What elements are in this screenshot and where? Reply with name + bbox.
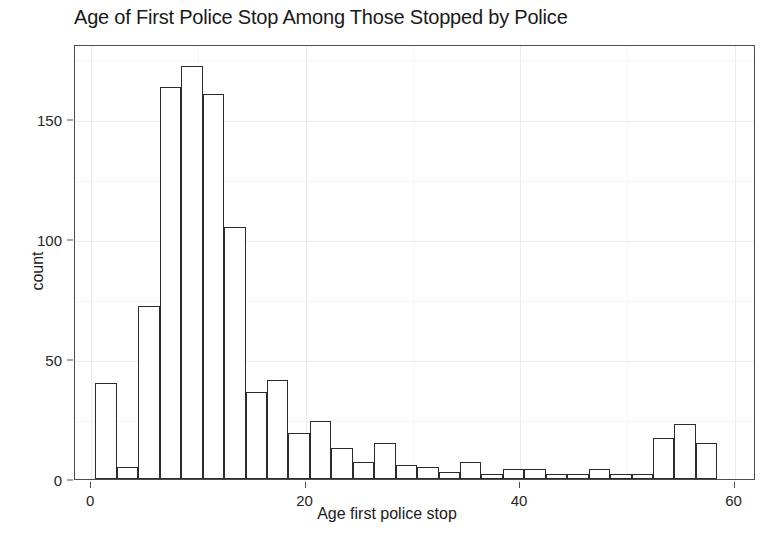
histogram-bar bbox=[288, 433, 309, 479]
histogram-bar bbox=[674, 424, 695, 479]
y-axis-tick-mark bbox=[67, 119, 73, 120]
chart-title: Age of First Police Stop Among Those Sto… bbox=[74, 6, 568, 29]
y-axis-tick-label: 150 bbox=[37, 111, 62, 128]
histogram-bar bbox=[567, 474, 588, 479]
histogram-bar bbox=[224, 227, 245, 479]
histogram-bar bbox=[117, 467, 138, 479]
histogram-bar bbox=[374, 443, 395, 479]
chart-figure: Age of First Police Stop Among Those Sto… bbox=[0, 0, 774, 553]
histogram-bar bbox=[546, 474, 567, 479]
histogram-bars bbox=[75, 46, 754, 479]
histogram-bar bbox=[503, 469, 524, 479]
histogram-bar bbox=[95, 383, 116, 479]
histogram-bar bbox=[396, 465, 417, 479]
y-axis-tick-label: 50 bbox=[45, 351, 62, 368]
histogram-bar bbox=[653, 438, 674, 479]
y-axis-tick-labels: 050100150 bbox=[0, 45, 62, 480]
plot-panel bbox=[74, 45, 755, 480]
histogram-bar bbox=[181, 66, 202, 479]
x-axis-tick-mark bbox=[90, 482, 91, 488]
histogram-bar bbox=[353, 462, 374, 479]
histogram-bar bbox=[331, 448, 352, 479]
histogram-bar bbox=[632, 474, 653, 479]
y-axis-tick-mark bbox=[67, 359, 73, 360]
histogram-bar bbox=[203, 94, 224, 479]
y-axis-tick-marks bbox=[67, 45, 74, 480]
x-axis-tick-mark bbox=[734, 482, 735, 488]
histogram-bar bbox=[610, 474, 631, 479]
y-axis-tick-label: 100 bbox=[37, 231, 62, 248]
y-axis-tick-mark bbox=[67, 239, 73, 240]
histogram-bar bbox=[310, 421, 331, 479]
y-axis-tick-mark bbox=[67, 480, 73, 481]
histogram-bar bbox=[267, 380, 288, 479]
x-axis-tick-mark bbox=[519, 482, 520, 488]
histogram-bar bbox=[696, 443, 717, 479]
y-axis-tick-label: 0 bbox=[54, 472, 62, 489]
histogram-bar bbox=[138, 306, 159, 479]
histogram-bar bbox=[246, 392, 267, 479]
x-axis-tick-mark bbox=[305, 482, 306, 488]
histogram-bar bbox=[460, 462, 481, 479]
histogram-bar bbox=[439, 472, 460, 479]
histogram-bar bbox=[524, 469, 545, 479]
histogram-bar bbox=[589, 469, 610, 479]
histogram-bar bbox=[417, 467, 438, 479]
histogram-bar bbox=[481, 474, 502, 479]
histogram-bar bbox=[160, 87, 181, 479]
x-axis-title: Age first police stop bbox=[0, 505, 774, 523]
